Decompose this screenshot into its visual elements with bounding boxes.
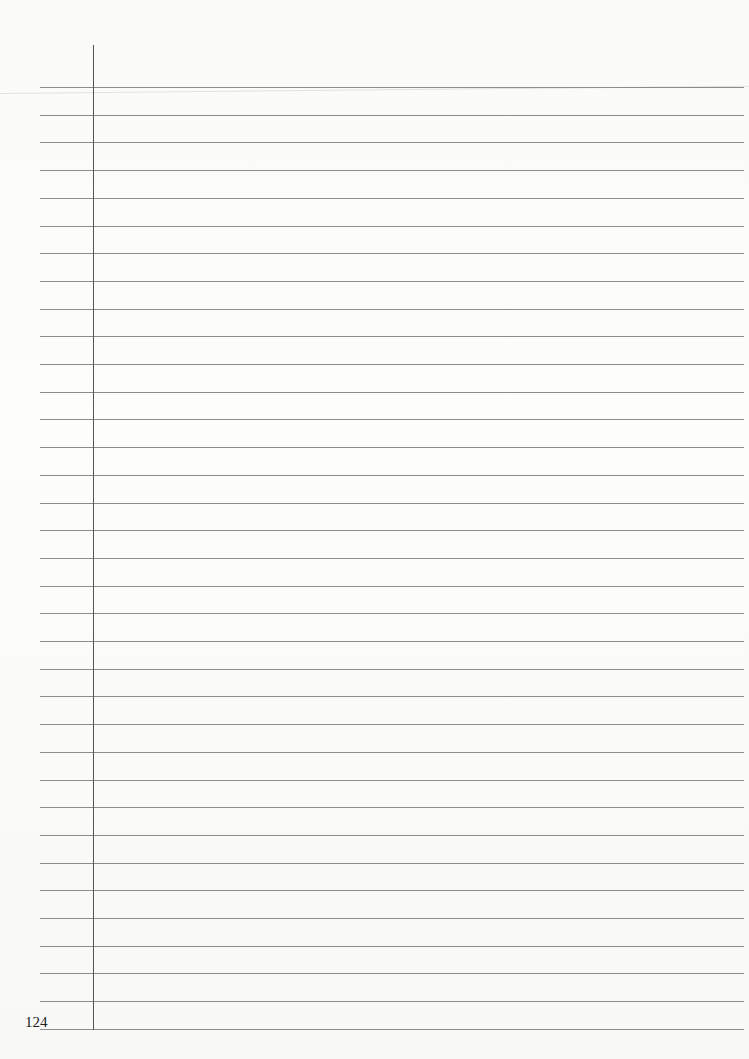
ruled-line xyxy=(40,87,744,88)
ruled-line xyxy=(40,392,744,393)
ruled-line xyxy=(40,918,744,919)
ruled-line xyxy=(40,142,744,143)
ruled-line xyxy=(40,586,744,587)
ruled-line xyxy=(40,641,744,642)
ruled-line xyxy=(40,724,744,725)
ruled-line xyxy=(40,115,744,116)
ruled-line xyxy=(40,198,744,199)
ruled-line xyxy=(40,696,744,697)
ruled-line xyxy=(40,973,744,974)
ruled-lines xyxy=(0,0,749,1059)
ruled-line xyxy=(40,863,744,864)
notebook-page: 124 xyxy=(0,0,749,1059)
ruled-line xyxy=(40,226,744,227)
ruled-line xyxy=(40,253,744,254)
ruled-line xyxy=(40,530,744,531)
ruled-line xyxy=(40,1029,744,1030)
ruled-line xyxy=(40,309,744,310)
ruled-line xyxy=(40,170,744,171)
ruled-line xyxy=(40,890,744,891)
ruled-line xyxy=(40,807,744,808)
ruled-line xyxy=(40,752,744,753)
ruled-line xyxy=(40,1001,744,1002)
margin-line xyxy=(93,45,94,1030)
ruled-line xyxy=(40,780,744,781)
ruled-line xyxy=(40,475,744,476)
ruled-line xyxy=(40,364,744,365)
ruled-line xyxy=(40,503,744,504)
ruled-line xyxy=(40,281,744,282)
ruled-line xyxy=(40,336,744,337)
ruled-line xyxy=(40,946,744,947)
ruled-line xyxy=(40,669,744,670)
ruled-line xyxy=(40,447,744,448)
page-number: 124 xyxy=(25,1014,48,1030)
ruled-line xyxy=(40,419,744,420)
ruled-line xyxy=(40,558,744,559)
ruled-line xyxy=(40,835,744,836)
ruled-line xyxy=(40,613,744,614)
